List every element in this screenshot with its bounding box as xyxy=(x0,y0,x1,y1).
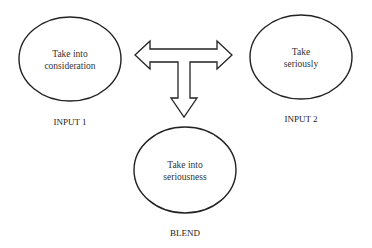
node-label-input-2: INPUT 2 xyxy=(284,114,317,124)
ellipse-blend xyxy=(134,127,236,213)
t-block-arrow-icon xyxy=(135,41,232,117)
node-blend: Take into seriousness BLEND xyxy=(134,127,236,238)
node-text-line: seriousness xyxy=(163,172,207,182)
node-text-line: consideration xyxy=(44,61,95,71)
node-input-2: Take seriously INPUT 2 xyxy=(250,15,352,124)
node-input-1: Take into consideration INPUT 1 xyxy=(19,17,121,127)
blend-diagram: Take into consideration INPUT 1 Take ser… xyxy=(0,0,372,248)
ellipse-input-1 xyxy=(19,17,121,101)
ellipse-input-2 xyxy=(250,15,352,99)
node-label-input-1: INPUT 1 xyxy=(53,117,86,127)
node-text-line: Take into xyxy=(52,49,88,59)
node-text-line: Take xyxy=(292,47,310,57)
node-text-line: Take into xyxy=(167,160,203,170)
node-label-blend: BLEND xyxy=(170,228,200,238)
node-text-line: seriously xyxy=(284,59,319,69)
